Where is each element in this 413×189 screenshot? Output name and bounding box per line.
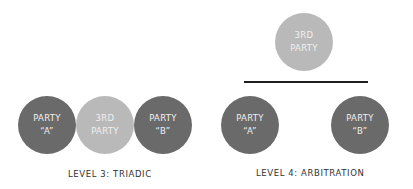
node-label: 3RD <box>96 112 115 125</box>
level4-caption: LEVEL 4: ARBITRATION <box>256 168 364 178</box>
node-label: PARTY <box>91 125 119 138</box>
party-a-node: PARTY “A” <box>221 96 279 154</box>
node-label: “A” <box>40 125 53 138</box>
third-party-node: 3RD PARTY <box>76 96 134 154</box>
node-label: “A” <box>243 125 256 138</box>
party-a-node: PARTY “A” <box>18 96 76 154</box>
third-party-node: 3RD PARTY <box>275 13 333 71</box>
party-b-node: PARTY “B” <box>331 96 389 154</box>
divider-line <box>244 81 368 83</box>
party-b-node: PARTY “B” <box>134 96 192 154</box>
node-label: PARTY <box>346 112 374 125</box>
node-label: PARTY <box>149 112 177 125</box>
node-label: “B” <box>353 125 368 138</box>
node-label: 3RD <box>295 29 314 42</box>
node-label: PARTY <box>236 112 264 125</box>
level3-caption: LEVEL 3: TRIADIC <box>68 169 152 179</box>
node-label: “B” <box>156 125 171 138</box>
node-label: PARTY <box>290 42 318 55</box>
node-label: PARTY <box>33 112 61 125</box>
